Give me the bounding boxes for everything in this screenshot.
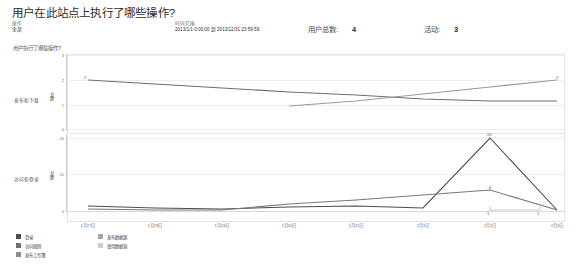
legend-label: 发布工作簿: [25, 252, 45, 258]
xtick-3: 1月30日: [269, 222, 309, 228]
legend-column-1: 登录 访问规则 发布工作簿: [16, 232, 45, 259]
legend-swatch-icon: [98, 234, 103, 239]
xtick-4: 1月31日: [336, 222, 376, 228]
legend-swatch-icon: [98, 243, 103, 248]
legend-label: 登录: [25, 234, 33, 240]
legend-swatch-icon: [16, 252, 21, 257]
legend-item-publish-datasource[interactable]: 发布数据源: [98, 232, 127, 241]
point-label-top-start: 2: [84, 75, 86, 80]
xtick-5: 2月1日: [403, 222, 443, 228]
xtick-0: 1月27日: [68, 222, 108, 228]
legend-swatch-icon: [16, 243, 21, 248]
legend-swatch-icon: [16, 234, 21, 239]
point-label-access-peak: 6: [489, 185, 491, 190]
xtick-1: 1月28日: [135, 222, 175, 228]
point-label-login-peak: 20: [487, 132, 492, 137]
legend-label: 发布数据源: [107, 234, 127, 240]
legend-label: 使用数据源: [107, 243, 127, 249]
legend-item-use-datasource[interactable]: 使用数据源: [98, 241, 127, 250]
legend-item-access-rules[interactable]: 访问规则: [16, 241, 45, 250]
point-label-access-end: 1: [537, 211, 539, 216]
point-label-login-end: 1: [487, 211, 489, 216]
xtick-7: 2月3日: [537, 222, 577, 228]
dashboard-page: 用户在此站点上执行了哪些操作? 操作 全部 时间范围 2013/1/1 0:00…: [0, 0, 577, 270]
xtick-2: 1月29日: [202, 222, 242, 228]
legend-column-2: 发布数据源 使用数据源: [98, 232, 127, 250]
series-publish-datasource: [289, 80, 557, 106]
legend-item-login[interactable]: 登录: [16, 232, 45, 241]
point-label-top-end: 2: [556, 75, 558, 80]
series-publish-workbook: [88, 80, 557, 101]
legend-label: 访问规则: [25, 243, 41, 249]
legend-item-publish-workbook[interactable]: 发布工作簿: [16, 250, 45, 259]
xtick-6: 2月2日: [470, 222, 510, 228]
